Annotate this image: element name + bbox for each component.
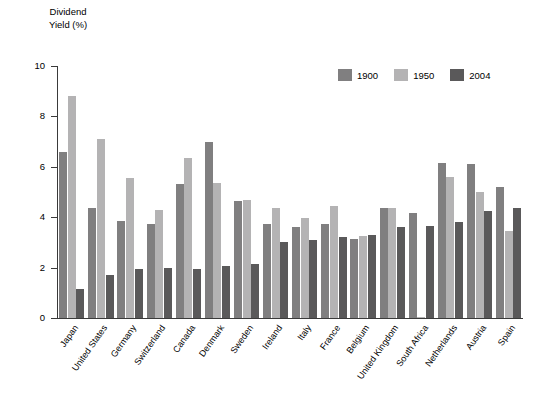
- bar: [234, 201, 242, 318]
- bar-group: [380, 66, 405, 318]
- bar: [484, 211, 492, 318]
- bar-group: [467, 66, 492, 318]
- bar: [292, 227, 300, 318]
- bar-group: [147, 66, 172, 318]
- bar: [147, 224, 155, 319]
- x-tick-label: Japan: [58, 323, 80, 349]
- x-tick-label: Germany: [109, 323, 138, 359]
- bar: [205, 142, 213, 318]
- bar: [68, 96, 76, 318]
- x-tick-label: Ireland: [260, 323, 284, 351]
- bar-group: [292, 66, 317, 318]
- bar: [350, 239, 358, 318]
- bar: [496, 187, 504, 318]
- bar: [426, 226, 434, 318]
- bar: [280, 242, 288, 318]
- x-tick-label: Switzerland: [133, 323, 168, 367]
- bar: [184, 158, 192, 318]
- bar: [155, 210, 163, 318]
- legend-swatch: [338, 69, 352, 81]
- y-tick-label: 2: [19, 262, 45, 273]
- bar-group: [496, 66, 521, 318]
- bar: [97, 139, 105, 318]
- bar: [397, 227, 405, 318]
- bar-group: [176, 66, 201, 318]
- bar: [176, 184, 184, 318]
- legend-label: 2004: [469, 70, 490, 81]
- bar-group: [263, 66, 288, 318]
- bar-group: [234, 66, 259, 318]
- legend-label: 1950: [413, 70, 434, 81]
- x-tick-label: Canada: [170, 323, 196, 355]
- bar-group: [117, 66, 142, 318]
- y-tick-mark: [51, 318, 57, 319]
- legend-item: 1950: [394, 69, 434, 81]
- bar: [359, 236, 367, 318]
- bar: [467, 164, 475, 318]
- bar: [88, 208, 96, 318]
- bar: [272, 208, 280, 318]
- y-tick-label: 0: [19, 312, 45, 323]
- bar-group: [205, 66, 230, 318]
- bar: [106, 275, 114, 318]
- legend-label: 1900: [357, 70, 378, 81]
- bar: [59, 152, 67, 318]
- bar: [309, 240, 317, 318]
- bar: [409, 213, 417, 318]
- bar: [330, 206, 338, 318]
- bar: [380, 208, 388, 318]
- x-tick-label: Denmark: [197, 323, 226, 359]
- chart-legend: 190019502004: [338, 69, 490, 81]
- y-tick-label: 4: [19, 211, 45, 222]
- bar: [368, 235, 376, 318]
- x-tick-label: France: [318, 323, 342, 352]
- bar: [263, 224, 271, 319]
- bar-group: [409, 66, 434, 318]
- bar: [243, 200, 251, 318]
- bar-group: [350, 66, 375, 318]
- bar-group: [88, 66, 113, 318]
- bar: [193, 269, 201, 318]
- bar: [505, 231, 513, 318]
- bar: [251, 264, 259, 318]
- y-tick-label: 10: [19, 60, 45, 71]
- y-tick-label: 6: [19, 161, 45, 172]
- bar-group: [321, 66, 346, 318]
- x-tick-label: Italy: [296, 323, 314, 342]
- x-tick-label: Sweden: [228, 323, 255, 355]
- bar: [417, 317, 425, 318]
- bar: [438, 163, 446, 318]
- bar: [126, 178, 134, 318]
- bar: [301, 218, 309, 318]
- bar: [476, 192, 484, 318]
- bar: [388, 208, 396, 318]
- bar: [117, 221, 125, 318]
- y-axis-title: Dividend Yield (%): [22, 6, 114, 31]
- bar: [76, 289, 84, 318]
- bar: [135, 269, 143, 318]
- bar: [321, 224, 329, 319]
- x-axis-line: [57, 318, 523, 319]
- bar-group: [59, 66, 84, 318]
- x-tick-label: Austria: [464, 323, 488, 352]
- plot-area: [57, 66, 523, 318]
- legend-item: 1900: [338, 69, 378, 81]
- bar: [513, 208, 521, 318]
- bar: [213, 183, 221, 318]
- y-tick-label: 8: [19, 110, 45, 121]
- legend-swatch: [450, 69, 464, 81]
- bar: [446, 177, 454, 318]
- x-tick-label: Belgium: [345, 323, 372, 355]
- bar: [339, 237, 347, 318]
- bar-group: [438, 66, 463, 318]
- bar: [164, 268, 172, 318]
- bar: [455, 222, 463, 318]
- legend-item: 2004: [450, 69, 490, 81]
- dividend-yield-bar-chart: Dividend Yield (%) 0246810 JapanUnited S…: [0, 0, 542, 409]
- x-tick-label: Spain: [496, 323, 517, 348]
- bar: [222, 266, 230, 318]
- legend-swatch: [394, 69, 408, 81]
